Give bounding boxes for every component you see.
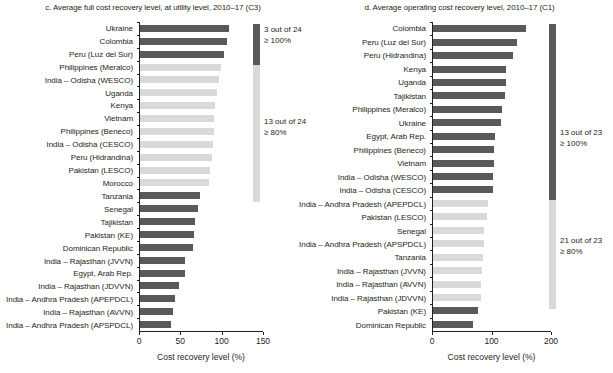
category-label: Vietnam xyxy=(286,157,429,170)
bar-row xyxy=(140,280,263,293)
category-label: India – Rajasthan (AVVN) xyxy=(0,306,136,319)
bar-row xyxy=(140,125,263,138)
y-tick xyxy=(137,228,140,229)
y-tick xyxy=(137,177,140,178)
category-label: Vietnam xyxy=(0,112,136,125)
bar-row xyxy=(433,183,551,196)
bar-row xyxy=(433,197,551,210)
y-tick xyxy=(430,197,433,198)
y-tick xyxy=(137,138,140,139)
x-tick-label: 100 xyxy=(484,336,498,346)
category-label: Kenya xyxy=(286,62,429,75)
bar-row xyxy=(140,215,263,228)
y-tick xyxy=(137,125,140,126)
x-tick xyxy=(551,332,552,335)
bar xyxy=(433,281,481,288)
bar-row xyxy=(433,103,551,116)
category-label: Uganda xyxy=(0,87,136,100)
category-label: India – Rajasthan (JVVN) xyxy=(286,265,429,278)
category-label: Pakistan (LESCO) xyxy=(286,211,429,224)
category-label: Philippines (Beneco) xyxy=(0,125,136,138)
y-tick xyxy=(430,264,433,265)
x-tick xyxy=(432,332,433,335)
y-tick xyxy=(137,305,140,306)
bar xyxy=(433,240,484,247)
category-label: India – Odisha (CESCO) xyxy=(286,184,429,197)
category-label: India – Odisha (WESCO) xyxy=(0,74,136,87)
bar xyxy=(433,254,483,261)
bar xyxy=(140,51,224,58)
y-tick xyxy=(137,22,140,23)
category-label: Egypt, Arab Rep. xyxy=(286,130,429,143)
bar-row xyxy=(140,189,263,202)
y-tick xyxy=(430,277,433,278)
bar-row xyxy=(140,164,263,177)
bar xyxy=(140,270,185,277)
category-label: Tajikistan xyxy=(286,89,429,102)
bar-row xyxy=(433,277,551,290)
x-tick xyxy=(222,332,223,335)
y-tick xyxy=(430,156,433,157)
category-label: Uganda xyxy=(286,76,429,89)
y-tick xyxy=(430,224,433,225)
category-label: Dominican Republic xyxy=(0,242,136,255)
category-label: Egypt, Arab Rep. xyxy=(0,268,136,281)
category-label: Philippines (Meralco) xyxy=(286,103,429,116)
x-tick-label: 150 xyxy=(256,336,270,346)
category-label: India – Rajasthan (JVVN) xyxy=(0,255,136,268)
x-tick-label: 50 xyxy=(176,336,185,346)
y-tick xyxy=(430,116,433,117)
bar-row xyxy=(433,116,551,129)
y-tick xyxy=(430,183,433,184)
bar xyxy=(433,146,494,153)
y-tick xyxy=(430,143,433,144)
category-label: India – Rajasthan (JDVVN) xyxy=(0,280,136,293)
bar xyxy=(433,294,481,301)
panel-d-legend-note-80-count: 21 out of 23 xyxy=(560,236,602,247)
panel-d-legend-note-100-count: 13 out of 23 xyxy=(560,128,602,139)
panel-c-x-axis-title: Cost recovery level (%) xyxy=(139,352,263,362)
y-tick xyxy=(430,130,433,131)
panel-d-title: d. Average operating cost recovery level… xyxy=(306,3,613,12)
category-label: India – Andhra Pradesh (APSPDCL) xyxy=(286,238,429,251)
bar-row xyxy=(433,170,551,183)
bar-row xyxy=(433,304,551,317)
category-label: Philippines (Meralco) xyxy=(0,61,136,74)
y-tick xyxy=(137,280,140,281)
bar xyxy=(433,160,494,167)
panel-d-x-ticks: 0100200 xyxy=(432,332,551,352)
bar-row xyxy=(433,224,551,237)
x-tick xyxy=(492,332,493,335)
bar xyxy=(140,295,175,302)
category-label: Peru (Luz del Sur) xyxy=(286,35,429,48)
bar xyxy=(140,282,179,289)
y-tick xyxy=(430,89,433,90)
panel-d-legend-note-80: 21 out of 23 ≥ 80% xyxy=(560,236,602,257)
legend-segment-dark xyxy=(549,24,556,200)
bar xyxy=(433,92,505,99)
y-tick xyxy=(137,267,140,268)
category-label: Peru (Hidrandina) xyxy=(286,49,429,62)
bar xyxy=(140,115,214,122)
y-tick xyxy=(137,202,140,203)
category-label: India – Odisha (CESCO) xyxy=(0,138,136,151)
bar xyxy=(433,25,526,32)
panel-d-bars xyxy=(433,22,551,331)
legend-segment-light xyxy=(253,65,260,202)
y-tick xyxy=(430,237,433,238)
bar-row xyxy=(433,130,551,143)
y-tick xyxy=(430,62,433,63)
category-label: Tanzania xyxy=(286,251,429,264)
bar xyxy=(140,321,171,328)
bar-row xyxy=(433,318,551,331)
panel-d-legend-note-100: 13 out of 23 ≥ 100% xyxy=(560,128,602,149)
bar xyxy=(433,186,493,193)
bar-row xyxy=(140,74,263,87)
y-tick xyxy=(137,112,140,113)
y-tick xyxy=(430,170,433,171)
bar-row xyxy=(140,112,263,125)
bar xyxy=(433,307,478,314)
bar-row xyxy=(140,202,263,215)
category-label: Dominican Republic xyxy=(286,319,429,332)
x-tick-label: 0 xyxy=(137,336,142,346)
